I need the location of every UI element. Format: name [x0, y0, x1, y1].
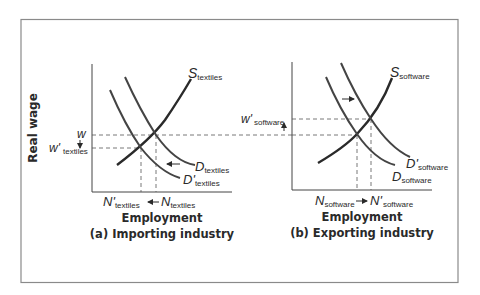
x-axis-label: Employment	[322, 210, 403, 224]
figure: Real wage Stextiles Dtextiles D'textiles…	[0, 0, 480, 295]
wage-new-label: w'software	[241, 112, 285, 127]
x-axis-label: Employment	[122, 211, 203, 225]
y-axis-label: Real wage	[26, 93, 40, 163]
panel-caption: (b) Exporting industry	[290, 226, 434, 240]
wage-new-label: w'textiles	[49, 141, 88, 156]
panel-caption: (a) Importing industry	[90, 227, 235, 241]
panel-importing: Stextiles Dtextiles D'textiles w w'texti…	[49, 64, 292, 241]
supply-curve	[117, 79, 191, 165]
emp-new-label: N'software	[370, 193, 414, 209]
supply-label: Stextiles	[188, 65, 222, 82]
panel-exporting: Ssoftware D'software Dsoftware w'softwar…	[241, 62, 449, 240]
demand-new-curve	[110, 90, 180, 178]
emp-label: Ntextiles	[161, 194, 195, 210]
demand-new-label: D'software	[406, 156, 449, 172]
wage-label: w	[77, 127, 87, 141]
emp-label: Nsoftware	[315, 193, 355, 209]
emp-new-label: N'textiles	[103, 194, 140, 210]
demand-label: Dtextiles	[195, 159, 229, 175]
supply-label: Ssoftware	[390, 64, 430, 81]
